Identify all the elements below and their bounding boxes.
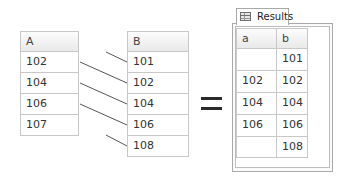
equals-bar-top bbox=[201, 97, 222, 100]
table-b-row: 102 bbox=[127, 72, 189, 94]
connector-101 bbox=[106, 52, 127, 62]
results-column-a: a bbox=[236, 28, 277, 49]
results-cell bbox=[236, 48, 277, 71]
results-column-b: b bbox=[276, 28, 308, 49]
results-cell: 104 bbox=[276, 92, 308, 115]
table-b-row: 106 bbox=[127, 114, 189, 136]
table-b-row: 101 bbox=[127, 51, 189, 73]
grid-icon bbox=[240, 12, 251, 21]
results-cell: 106 bbox=[236, 114, 277, 137]
results-cell: 104 bbox=[236, 92, 277, 115]
connector-106 bbox=[80, 104, 127, 125]
results-tab-label: Results bbox=[257, 11, 293, 22]
table-b-header: B bbox=[127, 31, 189, 52]
connector-102 bbox=[80, 62, 127, 83]
equals-bar-bottom bbox=[201, 107, 222, 110]
results-cell: 102 bbox=[236, 70, 277, 93]
table-b-row: 108 bbox=[127, 135, 189, 157]
results-cell: 101 bbox=[276, 48, 308, 71]
results-cell: 106 bbox=[276, 114, 308, 137]
connector-104 bbox=[80, 83, 127, 104]
table-b-row: 104 bbox=[127, 93, 189, 115]
results-cell: 102 bbox=[276, 70, 308, 93]
results-cell bbox=[236, 136, 277, 158]
results-cell: 108 bbox=[276, 136, 308, 158]
connector-108 bbox=[106, 135, 127, 146]
